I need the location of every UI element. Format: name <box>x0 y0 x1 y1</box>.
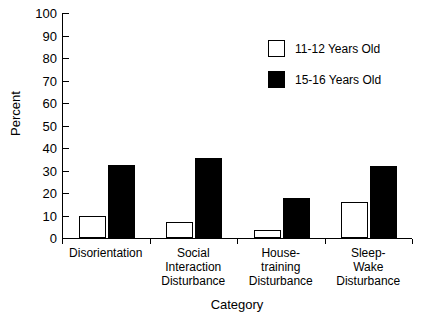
bar-chart-figure: Percent 0102030405060708090100 Disorient… <box>0 0 437 325</box>
y-axis-tick-label: 90 <box>27 28 57 43</box>
legend-item[interactable]: 15-16 Years Old <box>268 71 381 88</box>
x-axis-tick <box>150 239 151 244</box>
x-axis-title: Category <box>62 297 412 312</box>
y-axis-tick-label: 40 <box>27 141 57 156</box>
y-axis-tick-label: 60 <box>27 96 57 111</box>
legend-swatch-icon <box>268 71 285 88</box>
legend-item-label: 11-12 Years Old <box>295 42 380 56</box>
y-axis-tick-label: 0 <box>27 231 57 246</box>
bar <box>254 230 281 238</box>
y-axis-tick-label: 80 <box>27 51 57 66</box>
y-axis-tick-label: 100 <box>27 6 57 21</box>
bar <box>195 158 222 238</box>
x-axis-tick <box>412 239 413 244</box>
legend-item-label: 15-16 Years Old <box>295 73 381 87</box>
legend-item[interactable]: 11-12 Years Old <box>268 40 381 57</box>
y-axis-title: Percent <box>8 78 23 150</box>
legend-swatch-icon <box>268 40 285 57</box>
bar <box>341 202 368 238</box>
bar <box>166 222 193 238</box>
y-axis-tick-label: 20 <box>27 186 57 201</box>
x-axis-tick <box>237 239 238 244</box>
bar <box>108 165 135 238</box>
y-axis-tick-label: 30 <box>27 163 57 178</box>
y-axis-tick-label: 70 <box>27 73 57 88</box>
bar <box>370 166 397 238</box>
x-axis-tick <box>325 239 326 244</box>
chart-legend: 11-12 Years Old15-16 Years Old <box>268 40 381 102</box>
y-axis-tick <box>63 238 69 239</box>
bar <box>79 216 106 239</box>
x-axis-tick <box>62 239 63 244</box>
bar <box>283 198 310 239</box>
y-axis-tick-label: 50 <box>27 118 57 133</box>
x-axis-category-label: Sleep- Wake Disturbance <box>305 246 433 288</box>
y-axis-tick-label: 10 <box>27 208 57 223</box>
